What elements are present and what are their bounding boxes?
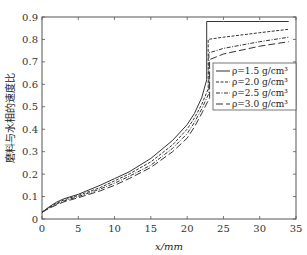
y-axis: 00.10.20.30.40.50.60.70.80.9	[22, 12, 296, 225]
plot-area	[42, 17, 296, 219]
x-tick-label: 35	[290, 223, 303, 234]
legend-label: ρ=2.5 g/cm³	[232, 88, 288, 98]
y-axis-label: 磨料与水相的速度比	[4, 73, 16, 163]
x-axis: 05101520253035	[39, 17, 303, 234]
x-tick-label: 5	[75, 223, 81, 234]
y-tick-label: 0.1	[22, 191, 38, 202]
series-line-2	[42, 29, 289, 212]
x-tick-label: 25	[217, 223, 230, 234]
y-tick-label: 0.4	[22, 124, 38, 135]
y-tick-label: 0.2	[22, 169, 38, 180]
plot-frame	[42, 17, 296, 219]
y-tick-label: 0.3	[22, 146, 38, 157]
y-tick-label: 0.8	[22, 34, 38, 45]
series-lines	[42, 22, 289, 213]
y-tick-label: 0	[32, 214, 38, 225]
x-tick-label: 30	[253, 223, 266, 234]
series-line-1	[42, 22, 289, 213]
x-tick-label: 10	[108, 223, 121, 234]
legend-label: ρ=1.5 g/cm³	[232, 66, 288, 76]
x-axis-label: x/mm	[155, 241, 183, 252]
legend-label: ρ=3.0 g/cm³	[232, 99, 288, 109]
chart: 00.10.20.30.40.50.60.70.80.9 05101520253…	[0, 0, 307, 255]
x-tick-label: 20	[181, 223, 194, 234]
y-tick-label: 0.9	[22, 12, 38, 23]
x-tick-label: 15	[144, 223, 157, 234]
y-tick-label: 0.5	[22, 101, 38, 112]
x-tick-label: 0	[39, 223, 45, 234]
y-tick-label: 0.6	[22, 79, 38, 90]
y-tick-label: 0.7	[22, 56, 38, 67]
legend: ρ=1.5 g/cm³ρ=2.0 g/cm³ρ=2.5 g/cm³ρ=3.0 g…	[213, 63, 296, 110]
legend-label: ρ=2.0 g/cm³	[232, 77, 288, 87]
